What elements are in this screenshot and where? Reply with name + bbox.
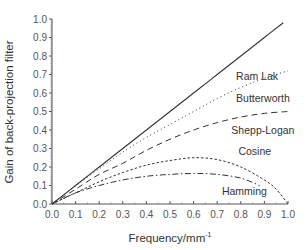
x-tick-label: 0.1 xyxy=(69,209,83,220)
y-axis-label: Gain of back-projection filter xyxy=(3,40,15,183)
x-tick-label: 0.9 xyxy=(257,209,271,220)
series-label-butterworth: Butterworth xyxy=(236,92,290,104)
x-tick-label: 0.5 xyxy=(163,209,177,220)
series-labels: Ram LakButterworthShepp-LoganCosineHammi… xyxy=(222,70,295,197)
y-tick-label: 0.1 xyxy=(33,180,47,191)
x-axis-label: Frequency/mm-1 xyxy=(129,231,212,244)
y-tick-label: 0.2 xyxy=(33,162,47,173)
y-tick-label: 0.6 xyxy=(33,88,47,99)
y-tick-label: 0.9 xyxy=(33,32,47,43)
series-line-ram-lak xyxy=(52,23,283,204)
x-axis-label-main: Frequency/mm xyxy=(129,232,206,244)
x-tick-label: 0.2 xyxy=(92,209,106,220)
x-tick-label: 0.8 xyxy=(234,209,248,220)
y-tick-label: 0.8 xyxy=(33,51,47,62)
series-label-ram-lak: Ram Lak xyxy=(236,70,279,82)
filter-gain-chart: 0.00.10.20.30.40.50.60.70.80.91.00.00.10… xyxy=(0,0,308,250)
series-label-shepp-logan: Shepp-Logan xyxy=(231,124,294,136)
series-line-cosine xyxy=(52,158,288,204)
x-tick-label: 0.0 xyxy=(45,209,59,220)
series-lines xyxy=(52,23,288,204)
y-tick-label: 0.3 xyxy=(33,143,47,154)
x-tick-label: 0.3 xyxy=(116,209,130,220)
y-tick-label: 1.0 xyxy=(33,14,47,25)
series-label-hamming: Hamming xyxy=(222,185,267,197)
x-tick-label: 0.4 xyxy=(139,209,153,220)
y-tick-label: 0.7 xyxy=(33,69,47,80)
x-tick-label: 0.6 xyxy=(187,209,201,220)
series-label-cosine: Cosine xyxy=(238,145,271,157)
y-tick-label: 0.4 xyxy=(33,125,47,136)
x-axis-label-superscript: -1 xyxy=(205,231,211,238)
y-tick-label: 0.5 xyxy=(33,106,47,117)
y-tick-label: 0.0 xyxy=(33,199,47,210)
x-tick-label: 0.7 xyxy=(210,209,224,220)
x-tick-label: 1.0 xyxy=(281,209,295,220)
